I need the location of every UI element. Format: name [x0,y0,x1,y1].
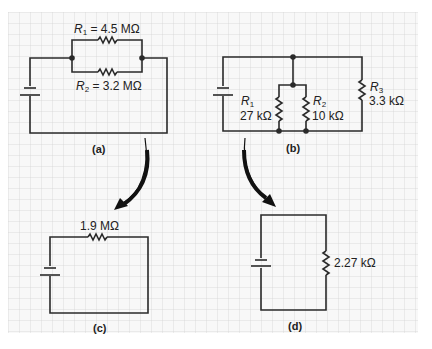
subscript: 2 [322,100,326,109]
subscript: 1 [250,100,254,109]
node-dot [291,83,295,87]
subscript: 1 [83,28,87,37]
symbol: R [313,94,322,108]
node-dot [277,129,281,133]
subscript: 2 [85,85,89,94]
label-a-r1: R1 = 4.5 MΩ [74,23,140,39]
caption-b: (b) [286,142,300,154]
symbol: R [76,79,85,93]
node-dot [70,56,74,60]
symbol: R [370,80,379,94]
label-b-r1-value: 27 kΩ [240,110,272,122]
label-b-r2-value: 10 kΩ [312,110,344,122]
node-dot [291,55,295,59]
caption-d: (d) [288,320,302,332]
label-a-r2: R2 = 3.2 MΩ [76,80,142,96]
label-c-req: 1.9 MΩ [80,220,119,232]
caption-c: (c) [93,322,106,334]
node-dot [304,129,308,133]
label-d-req: 2.27 kΩ [334,257,376,269]
caption-a: (a) [92,143,105,155]
graph-paper-background [8,12,418,333]
symbol: R [74,22,83,36]
diagram-canvas [0,0,432,349]
symbol: R [241,94,250,108]
node-dot [140,56,144,60]
value: = 4.5 MΩ [90,22,139,36]
value: = 3.2 MΩ [92,79,141,93]
label-b-r3-value: 3.3 kΩ [369,95,404,107]
